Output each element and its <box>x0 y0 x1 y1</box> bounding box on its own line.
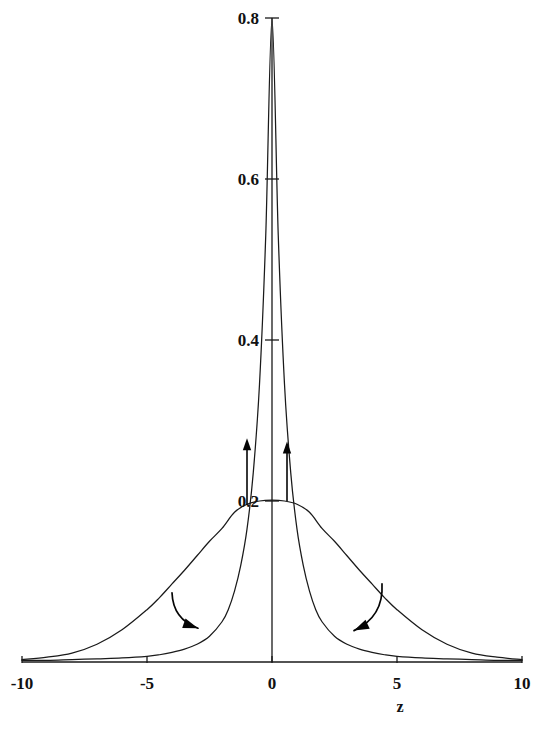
x-tick-label: -10 <box>11 674 34 693</box>
x-tick-label: 0 <box>268 674 277 693</box>
y-tick-label: 0.2 <box>238 492 259 511</box>
x-tick-label: 10 <box>514 674 531 693</box>
y-tick-label: 0.8 <box>238 9 259 28</box>
density-comparison-chart: -10-50510 0.20.40.60.8 z <box>0 0 538 749</box>
y-tick-label: 0.6 <box>238 170 259 189</box>
chart-figure: -10-50510 0.20.40.60.8 z <box>0 0 538 749</box>
y-tick-label: 0.4 <box>238 331 260 350</box>
x-tick-label: -5 <box>140 674 154 693</box>
x-axis-title: z <box>396 698 403 715</box>
x-tick-label: 5 <box>393 674 402 693</box>
